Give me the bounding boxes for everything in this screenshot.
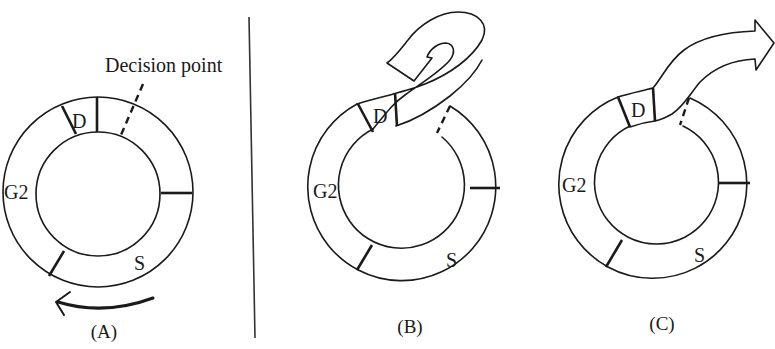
decision-point-label: Decision point — [105, 54, 223, 77]
panel-b-caption: (B) — [397, 316, 422, 338]
panel-a-label-d: D — [72, 110, 86, 132]
panel-c-exit-arrow — [653, 20, 774, 121]
panel-a-lower-boundary — [49, 251, 64, 276]
panel-a: Decision point D G2 S (A) — [3, 54, 223, 343]
panel-c-label-d: D — [631, 99, 645, 121]
panel-a-label-g2: G2 — [4, 181, 28, 203]
panel-b-label-s: S — [446, 249, 457, 271]
panel-a-decision-point-line — [121, 84, 143, 135]
cell-cycle-diagram: Decision point D G2 S (A) D G2 S (B) — [0, 0, 775, 349]
panel-c-label-g2: G2 — [562, 174, 586, 196]
panel-b-d-left-boundary — [358, 104, 373, 132]
panel-b-d-right-boundary — [395, 93, 397, 126]
panel-a-direction-arrow — [58, 298, 153, 308]
panel-c-band-bottom-edge — [630, 121, 655, 127]
panel-a-caption: (A) — [91, 321, 117, 343]
panel-b-decision-point-line — [437, 106, 450, 133]
panel-b: D G2 S (B) — [308, 12, 500, 338]
panel-c: D G2 S (C) — [559, 20, 774, 335]
panel-c-inner-ring — [594, 126, 718, 244]
panel-b-label-d: D — [373, 105, 387, 127]
panel-b-label-g2: G2 — [313, 180, 337, 202]
panel-a-label-s: S — [134, 252, 145, 274]
panel-divider — [249, 17, 255, 338]
panel-a-inner-ring — [36, 132, 160, 256]
panel-c-label-s: S — [694, 244, 705, 266]
panel-c-d-right-boundary — [653, 88, 655, 121]
panel-b-lower-boundary — [357, 245, 372, 270]
panel-c-caption: (C) — [649, 313, 674, 335]
panel-c-d-left-boundary — [618, 97, 630, 127]
panel-b-inner-ring — [338, 129, 464, 248]
panel-c-band-top-edge — [618, 88, 653, 97]
panel-c-lower-boundary — [606, 240, 622, 267]
